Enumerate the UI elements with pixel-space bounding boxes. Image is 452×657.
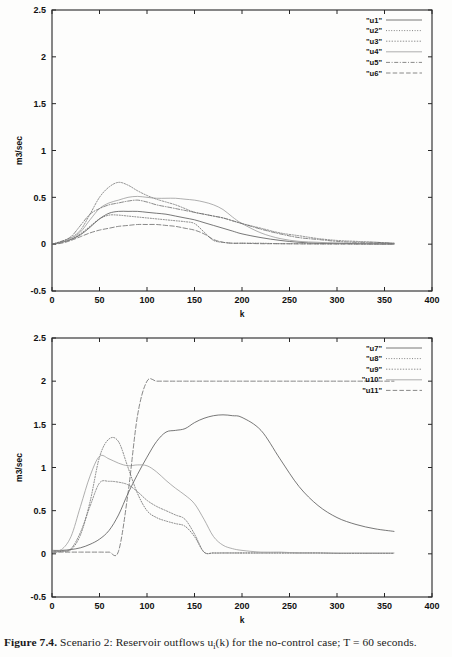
y-tick-label: 1 (41, 146, 46, 156)
series-group (52, 182, 394, 244)
y-tick-label: 1 (41, 463, 46, 473)
series-line (52, 196, 394, 244)
x-tick-label: 300 (329, 601, 344, 611)
x-tick-label: 400 (424, 295, 439, 305)
legend: "u7""u8""u9""u10""u11" (362, 344, 422, 395)
legend: "u1""u2""u3""u4""u5""u6" (366, 16, 422, 78)
series-line (52, 415, 394, 551)
legend-label: "u10" (362, 375, 383, 384)
bottom-chart-panel: 050100150200250300350400-0.500.511.522.5… (0, 330, 452, 630)
y-tick-label: -0.5 (30, 286, 46, 296)
y-axis-label: m3/sec (14, 453, 24, 482)
y-tick-label: -0.5 (30, 592, 46, 602)
x-tick-label: 100 (139, 601, 154, 611)
caption-label: Figure 7.4. (4, 636, 57, 648)
x-tick-label: 150 (187, 601, 202, 611)
y-tick-label: 0.5 (33, 193, 46, 203)
x-axis-label: k (240, 615, 245, 625)
x-tick-label: 250 (282, 601, 297, 611)
series-group (52, 379, 394, 556)
x-tick-label: 400 (424, 601, 439, 611)
series-line (52, 379, 394, 556)
legend-label: "u6" (366, 69, 382, 78)
top-chart-svg: 050100150200250300350400-0.500.511.522.5… (0, 0, 452, 322)
legend-label: "u7" (366, 344, 382, 353)
x-tick-label: 250 (282, 295, 297, 305)
x-axis-label: k (240, 309, 245, 319)
y-axis-label: m3/sec (14, 136, 24, 165)
legend-label: "u8" (366, 354, 382, 363)
caption-text-part2: (k) for the no-control case; T = 60 seco… (216, 636, 417, 648)
y-tick-label: 2 (41, 376, 46, 386)
legend-label: "u9" (366, 365, 382, 374)
series-line (52, 481, 394, 554)
y-tick-label: 1.5 (33, 420, 46, 430)
series-line (52, 455, 394, 553)
bottom-chart-svg: 050100150200250300350400-0.500.511.522.5… (0, 330, 452, 630)
y-tick-label: 0 (41, 239, 46, 249)
series-line (52, 200, 394, 244)
x-tick-label: 200 (234, 601, 249, 611)
y-tick-label: 2.5 (33, 5, 46, 15)
x-tick-label: 50 (94, 295, 104, 305)
legend-label: "u3" (366, 37, 382, 46)
figure-container: 050100150200250300350400-0.500.511.522.5… (0, 0, 452, 657)
legend-label: "u2" (366, 26, 382, 35)
y-tick-label: 2.5 (33, 333, 46, 343)
legend-label: "u4" (366, 47, 382, 56)
x-tick-label: 0 (49, 295, 54, 305)
y-tick-label: 0 (41, 549, 46, 559)
x-tick-label: 0 (49, 601, 54, 611)
x-tick-label: 50 (94, 601, 104, 611)
figure-caption: Figure 7.4. Scenario 2: Reservoir outflo… (4, 636, 450, 651)
series-line (52, 182, 394, 244)
x-tick-label: 150 (187, 295, 202, 305)
x-tick-label: 350 (377, 601, 392, 611)
x-tick-label: 200 (234, 295, 249, 305)
y-tick-label: 2 (41, 52, 46, 62)
legend-label: "u11" (362, 386, 382, 395)
legend-label: "u1" (366, 16, 382, 25)
x-tick-label: 300 (329, 295, 344, 305)
series-line (52, 224, 394, 244)
x-tick-label: 350 (377, 295, 392, 305)
caption-text-part1: Scenario 2: Reservoir outflows u (60, 636, 213, 648)
legend-label: "u5" (366, 58, 382, 67)
y-tick-label: 1.5 (33, 99, 46, 109)
y-tick-label: 0.5 (33, 506, 46, 516)
top-chart-panel: 050100150200250300350400-0.500.511.522.5… (0, 0, 452, 322)
series-line (52, 211, 394, 244)
x-tick-label: 100 (139, 295, 154, 305)
